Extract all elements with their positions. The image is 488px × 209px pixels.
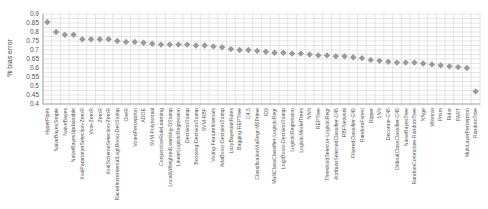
data-point-marker bbox=[70, 32, 76, 38]
x-tick-label: LazyBayesianRules bbox=[228, 108, 234, 154]
x-tick-label: HyperPipes bbox=[44, 108, 50, 135]
bias-error-chart: 0.90.850.80.750.70.650.60.550.50.450.4 %… bbox=[0, 0, 488, 209]
x-tick-label: NNge bbox=[420, 108, 426, 121]
x-tick-label: Ridor bbox=[446, 108, 452, 121]
x-tick-label: ADOE bbox=[140, 107, 146, 122]
x-tick-label: SVM-Polynomial bbox=[149, 108, 155, 146]
y-tick-label: 0.45 bbox=[26, 91, 39, 98]
x-tick-label: NaiveBayesTree bbox=[403, 108, 409, 146]
x-tick-label: VotedPerceptron bbox=[132, 108, 138, 147]
x-tick-label: OrdinalClassClassifier-C45 bbox=[394, 108, 400, 170]
data-point-marker bbox=[368, 57, 374, 63]
data-point-marker bbox=[62, 32, 68, 38]
data-point-marker bbox=[228, 46, 234, 52]
x-tick-label: Voting-FeatureIntervals bbox=[210, 108, 216, 162]
y-tick-label: 0.4 bbox=[30, 100, 39, 107]
y-axis-label: % bias error bbox=[6, 38, 13, 76]
x-tick-label: XvalSchemeSelection-ZeroR bbox=[105, 108, 111, 175]
data-point-marker bbox=[105, 36, 111, 42]
x-tick-label: Prism bbox=[437, 108, 443, 121]
x-tick-label: Decorate-C45 bbox=[385, 108, 391, 140]
x-tick-label: LogitBoost-DecisionStump bbox=[280, 108, 286, 169]
data-point-marker bbox=[280, 50, 286, 56]
x-tick-label: LogisticRegression bbox=[289, 108, 295, 152]
y-tick-label: 0.85 bbox=[26, 19, 39, 26]
x-tick-label: FilteredClassifier-C45 bbox=[350, 108, 356, 158]
x-tick-label: NaiveBayesSimple bbox=[53, 108, 59, 152]
x-tick-label: RandomTree bbox=[472, 108, 478, 138]
data-point-marker bbox=[201, 42, 207, 48]
data-point-marker bbox=[44, 19, 50, 25]
data-point-marker bbox=[359, 55, 365, 61]
x-tick-label: SVM-RBF bbox=[201, 108, 207, 131]
x-tick-label: RBFNetwork bbox=[341, 108, 347, 138]
y-tick-label: 0.8 bbox=[30, 28, 39, 35]
data-point-marker bbox=[429, 61, 435, 67]
data-point-marker bbox=[210, 43, 216, 49]
data-point-marker bbox=[193, 42, 199, 48]
x-tick-label: REPTree bbox=[315, 108, 321, 129]
x-tick-label: NaiveBayes bbox=[62, 108, 68, 136]
x-tick-label: ClassificationViaRegr-M5Prime bbox=[254, 108, 260, 180]
data-point-marker bbox=[175, 41, 181, 47]
data-point-marker bbox=[341, 53, 347, 59]
x-tick-label: OneR bbox=[123, 108, 129, 122]
data-point-marker bbox=[333, 53, 339, 59]
data-point-marker bbox=[254, 48, 260, 54]
x-tick-label: AttributeSelectedClassifier-C45 bbox=[333, 108, 339, 180]
x-tick-label: NaiveBayesUpdateable bbox=[70, 108, 76, 162]
x-tick-label: ZeroR bbox=[97, 108, 103, 123]
y-tick-label: 0.65 bbox=[26, 55, 39, 62]
data-point-marker bbox=[184, 41, 190, 47]
data-point-marker bbox=[394, 59, 400, 65]
x-tick-label: LogisticModelTrees bbox=[298, 108, 304, 153]
y-tick-label: 0.9 bbox=[30, 10, 39, 17]
data-point-marker bbox=[437, 62, 443, 68]
data-point-marker bbox=[271, 50, 277, 56]
x-tick-label: Vote-ZeroR bbox=[88, 108, 94, 135]
data-point-marker bbox=[472, 88, 478, 94]
x-tick-label: ConjunctiveRuleLearning bbox=[158, 108, 164, 166]
y-axis-ticks: 0.90.850.80.750.70.650.60.550.50.450.4 bbox=[26, 10, 39, 107]
x-tick-label: NNN bbox=[306, 108, 312, 119]
x-tick-label: C4.5 bbox=[245, 108, 251, 119]
data-point-marker bbox=[385, 59, 391, 65]
y-tick-label: 0.75 bbox=[26, 37, 39, 44]
x-tick-label: MultiLayerPerceptron bbox=[464, 108, 470, 157]
x-tick-label: MultiClassClassifier-LogisticRegr bbox=[271, 108, 277, 184]
data-point-marker bbox=[376, 58, 382, 64]
data-point-marker bbox=[132, 39, 138, 45]
data-point-marker bbox=[245, 47, 251, 53]
x-tick-label: RandomCommittee-RandomTree bbox=[411, 108, 417, 185]
data-point-marker bbox=[263, 49, 269, 55]
data-point-marker bbox=[315, 52, 321, 58]
x-tick-label: RacedIncrementalLogitBoost-DecStump bbox=[114, 108, 120, 201]
data-point-marker bbox=[97, 36, 103, 42]
data-point-marker bbox=[324, 52, 330, 58]
x-tick-label: LocallyWeightedLearning-DStump bbox=[167, 108, 173, 187]
data-point-marker bbox=[88, 36, 94, 42]
x-tick-label: Ripper bbox=[368, 108, 374, 124]
data-point-marker bbox=[464, 65, 470, 71]
x-tick-label: DecisionStump bbox=[184, 108, 190, 143]
data-point-marker bbox=[123, 39, 129, 45]
y-tick-label: 0.5 bbox=[30, 82, 39, 89]
y-tick-label: 0.55 bbox=[26, 73, 39, 80]
x-tick-label: 1NN bbox=[376, 108, 382, 119]
data-point-marker bbox=[114, 38, 120, 44]
data-point-marker bbox=[158, 41, 164, 47]
x-axis-labels: HyperPipesNaiveBayesSimpleNaiveBayesNaiv… bbox=[44, 107, 478, 200]
data-point-marker bbox=[455, 64, 461, 70]
x-tick-label: AdaBoost-DecisionStump bbox=[219, 108, 225, 167]
data-point-marker bbox=[79, 36, 85, 42]
data-point-marker bbox=[350, 54, 356, 60]
x-tick-label: Boosting-DecisionStump bbox=[193, 108, 199, 165]
data-point-marker bbox=[149, 41, 155, 47]
y-tick-label: 0.7 bbox=[30, 46, 39, 53]
data-point-marker bbox=[236, 47, 242, 53]
data-point-marker bbox=[420, 60, 426, 66]
data-point-marker bbox=[289, 50, 295, 56]
y-tick-label: 0.6 bbox=[30, 64, 39, 71]
data-point-marker bbox=[298, 50, 304, 56]
x-tick-label: LinearLogisticRegression bbox=[175, 108, 181, 166]
